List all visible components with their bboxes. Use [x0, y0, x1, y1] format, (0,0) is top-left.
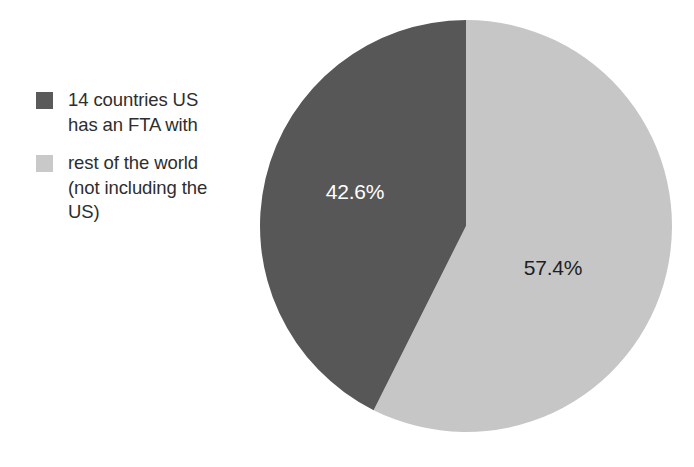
legend-label-rest-of-world: rest of the world (not including the US): [68, 151, 207, 225]
legend-swatch-light-icon: [36, 155, 53, 172]
legend-item-rest-of-world[interactable]: rest of the world (not including the US): [36, 151, 251, 225]
pie-chart-figure: 14 countries US has an FTA with rest of …: [0, 0, 694, 467]
legend-swatch-dark-icon: [36, 92, 53, 109]
chart-legend: 14 countries US has an FTA with rest of …: [36, 88, 251, 239]
pie-slice-fta-countries[interactable]: [260, 20, 466, 410]
legend-item-fta-countries[interactable]: 14 countries US has an FTA with: [36, 88, 251, 137]
pie-slice-rest-of-world[interactable]: [374, 20, 672, 432]
legend-label-fta-countries: 14 countries US has an FTA with: [68, 88, 198, 137]
pie-label-fta-countries: 42.6%: [326, 180, 385, 203]
pie-label-rest-of-world: 57.4%: [524, 256, 583, 279]
